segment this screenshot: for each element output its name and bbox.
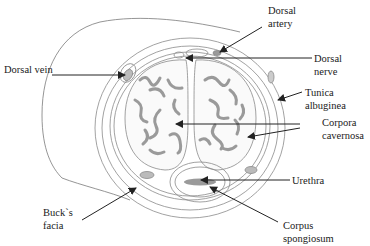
arrow-dorsal-artery	[220, 27, 262, 52]
label-tunica-albuginea: Tunica	[305, 87, 334, 98]
label-dorsal-nerve: nerve	[314, 66, 338, 77]
label-tunica-albuginea: albuginea	[305, 100, 346, 111]
label-urethra: Urethra	[292, 175, 324, 186]
label-bucks-facia: Buck`s	[43, 207, 73, 218]
arrow-tunica-albuginea	[278, 92, 302, 100]
label-dorsal-artery: artery	[268, 18, 293, 29]
arrow-corpora-cavernosa-right	[248, 128, 300, 137]
label-corpus-spongiosum: spongiosum	[283, 233, 334, 244]
label-dorsal-nerve: Dorsal	[314, 53, 342, 64]
cross-section	[95, 38, 285, 218]
diagram-canvas: Dorsal artery Dorsal nerve Dorsal vein T…	[0, 0, 370, 246]
label-bucks-facia: facia	[43, 220, 64, 231]
arrow-corpus-spongiosum	[210, 187, 278, 222]
label-corpora-cavernosa: cavernosa	[322, 130, 364, 141]
label-corpus-spongiosum: Corpus	[283, 220, 313, 231]
label-corpora-cavernosa: Corpora	[322, 117, 357, 128]
label-dorsal-artery: Dorsal	[268, 5, 296, 16]
label-dorsal-vein: Dorsal vein	[4, 64, 53, 75]
skin-layer	[95, 38, 285, 218]
